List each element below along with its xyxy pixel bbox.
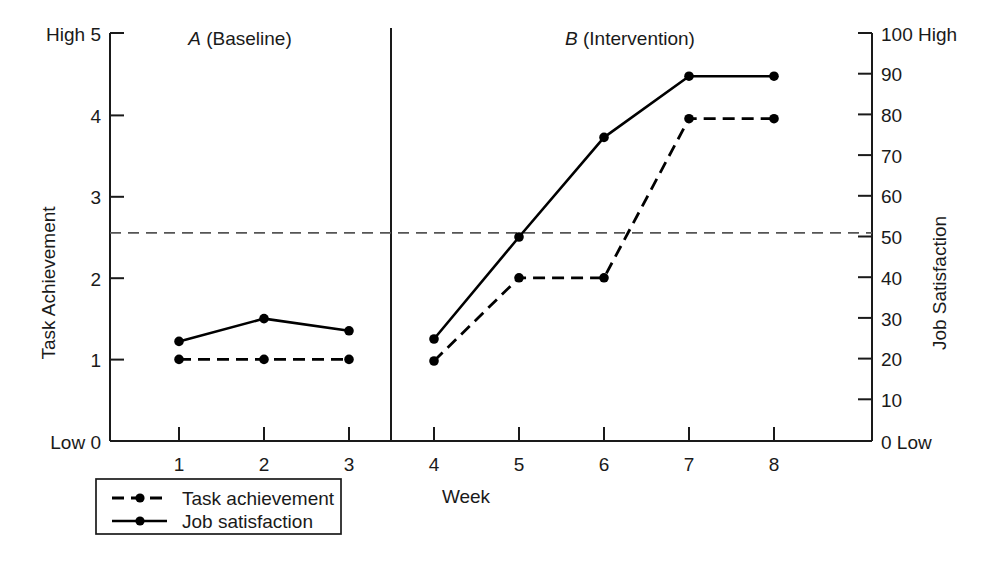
data-point bbox=[429, 334, 439, 344]
data-point bbox=[174, 355, 184, 365]
right-axis-tick-label-10: 10 bbox=[881, 390, 902, 411]
task-achievement-markers bbox=[174, 114, 779, 366]
data-point bbox=[769, 114, 779, 124]
data-point bbox=[514, 232, 524, 242]
data-point bbox=[769, 71, 779, 81]
x-tick-label-4: 4 bbox=[429, 454, 440, 475]
phase-a-name: (Baseline) bbox=[206, 28, 292, 49]
job-satisfaction-markers bbox=[174, 71, 779, 346]
x-tick-label-3: 3 bbox=[344, 454, 355, 475]
right-axis-tick-label-60: 60 bbox=[881, 186, 902, 207]
data-point bbox=[514, 273, 524, 283]
x-tick-label-5: 5 bbox=[514, 454, 525, 475]
data-point bbox=[684, 114, 694, 124]
left-axis-low-label: Low 0 bbox=[50, 432, 101, 453]
right-axis-tick-label-80: 80 bbox=[881, 105, 902, 126]
phase-label-b: B (Intervention) bbox=[565, 28, 695, 49]
series-job-satisfaction bbox=[174, 71, 779, 346]
legend-marker-job-satisfaction bbox=[135, 516, 144, 525]
phase-a-letter: A bbox=[187, 28, 201, 49]
right-axis-tick-label-90: 90 bbox=[881, 64, 902, 85]
right-y-axis-title: Job Satisfaction bbox=[929, 216, 950, 350]
data-point bbox=[599, 133, 609, 143]
chart-page: High 5 4 3 2 1 Low 0 100 High 90 80 70 6… bbox=[0, 0, 982, 564]
x-tick-label-2: 2 bbox=[259, 454, 270, 475]
x-tick-label-8: 8 bbox=[769, 454, 780, 475]
right-axis-tick-label-20: 20 bbox=[881, 349, 902, 370]
x-axis-ticks: 1 2 3 4 5 6 7 8 bbox=[174, 427, 780, 475]
x-axis-title: Week bbox=[442, 486, 491, 507]
data-point bbox=[259, 355, 269, 365]
left-axis-tick-label-3: 3 bbox=[90, 187, 101, 208]
data-point bbox=[344, 355, 354, 365]
x-tick-label-1: 1 bbox=[174, 454, 185, 475]
ab-design-line-chart: High 5 4 3 2 1 Low 0 100 High 90 80 70 6… bbox=[0, 0, 982, 564]
phase-b-name: (Intervention) bbox=[583, 28, 695, 49]
data-point bbox=[174, 337, 184, 347]
legend-label-task-achievement: Task achievement bbox=[182, 488, 335, 509]
right-axis-low-label: 0 Low bbox=[881, 432, 932, 453]
right-axis-high-label: 100 High bbox=[881, 24, 957, 45]
data-point bbox=[684, 71, 694, 81]
data-point bbox=[429, 356, 439, 366]
data-point bbox=[259, 314, 269, 324]
task-achievement-line-phase-b bbox=[434, 119, 774, 361]
chart-legend: Task achievement Job satisfaction bbox=[96, 479, 341, 534]
left-y-axis-title: Task Achievement bbox=[38, 206, 59, 360]
series-task-achievement bbox=[174, 114, 779, 366]
x-tick-label-7: 7 bbox=[684, 454, 695, 475]
data-point bbox=[344, 326, 354, 336]
left-axis-tick-label-1: 1 bbox=[90, 350, 101, 371]
job-satisfaction-line-phase-b bbox=[434, 76, 774, 339]
left-axis-tick-label-2: 2 bbox=[90, 269, 101, 290]
right-axis-tick-label-50: 50 bbox=[881, 227, 902, 248]
legend-marker-task-achievement bbox=[135, 493, 144, 502]
right-axis-tick-label-40: 40 bbox=[881, 268, 902, 289]
x-tick-label-6: 6 bbox=[599, 454, 610, 475]
axes-group bbox=[110, 33, 872, 441]
left-axis-tick-label-4: 4 bbox=[90, 106, 101, 127]
right-axis-tick-label-70: 70 bbox=[881, 146, 902, 167]
data-point bbox=[599, 273, 609, 283]
legend-label-job-satisfaction: Job satisfaction bbox=[182, 511, 313, 532]
right-axis-tick-label-30: 30 bbox=[881, 309, 902, 330]
phase-b-letter: B bbox=[565, 28, 578, 49]
phase-label-a: A (Baseline) bbox=[187, 28, 292, 49]
left-axis-high-label: High 5 bbox=[46, 24, 101, 45]
